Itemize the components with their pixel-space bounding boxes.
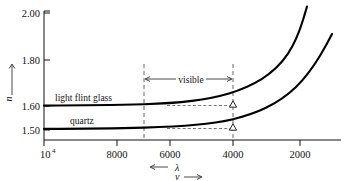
x-axis-label-nu: ν xyxy=(175,171,180,181)
curve-label-quartz: quartz xyxy=(70,116,94,126)
y-tick-label-1-50: 1.50 xyxy=(22,125,40,136)
y-tick-label-1-60: 1.60 xyxy=(22,101,40,112)
x-tick-label-4000: 4000 xyxy=(223,149,244,160)
x-tick-label-8000: 8000 xyxy=(107,149,128,160)
dispersion-chart-figure: 2.00 1.80 1.60 1.50 n 10 4 8000 6000 400… xyxy=(0,0,346,181)
x-tick-label-2000: 2000 xyxy=(290,149,311,160)
y-tick-label-1-80: 1.80 xyxy=(22,55,40,66)
y-tick-label-2-00: 2.00 xyxy=(22,8,40,19)
y-axis-label-n: n xyxy=(3,97,14,102)
marker-triangle-flint-glass xyxy=(229,101,236,107)
y-axis-title-group: n xyxy=(3,64,15,102)
x-axis-frequency-title-group: ν xyxy=(175,171,202,181)
x-tick-label-6000: 6000 xyxy=(160,149,181,160)
x-tick-label-10000-group: 10 4 xyxy=(40,147,56,160)
visible-range-annotation: visible xyxy=(145,75,232,85)
marker-triangle-quartz xyxy=(229,124,236,130)
x-tick-label-10000-base: 10 xyxy=(40,149,51,160)
y-axis-spine xyxy=(44,11,50,140)
visible-label: visible xyxy=(178,75,203,85)
chart-svg: 2.00 1.80 1.60 1.50 n 10 4 8000 6000 400… xyxy=(0,0,346,181)
curve-label-light-flint-glass: light flint glass xyxy=(55,93,112,103)
x-tick-label-10000-exponent: 4 xyxy=(52,147,56,155)
curve-light-flint-glass xyxy=(44,7,307,106)
